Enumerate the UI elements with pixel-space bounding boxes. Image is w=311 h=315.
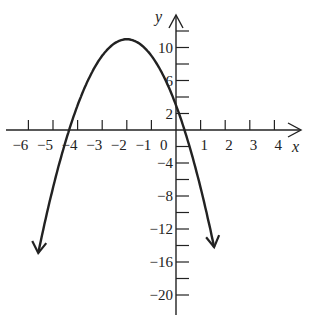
x-tick-label: −1 bbox=[135, 137, 151, 153]
x-tick-label: 1 bbox=[201, 137, 209, 153]
y-tick-label: 2 bbox=[166, 106, 174, 122]
x-tick-label: −6 bbox=[12, 137, 28, 153]
y-tick-label: 10 bbox=[158, 40, 173, 56]
x-tick-label: −5 bbox=[37, 137, 53, 153]
origin-label: 0 bbox=[160, 137, 168, 153]
y-ticks bbox=[176, 31, 189, 295]
y-tick-label: −16 bbox=[150, 254, 174, 270]
x-tick-label: 3 bbox=[250, 137, 257, 153]
y-axis-label: y bbox=[153, 8, 163, 26]
y-tick-label: −4 bbox=[157, 155, 173, 171]
x-tick-label: 4 bbox=[274, 137, 282, 153]
x-tick-label: −2 bbox=[111, 137, 127, 153]
y-tick-labels: 1062−4−8−12−16−20 bbox=[150, 40, 174, 304]
x-tick-labels: −6−5−4−3−2−11234 bbox=[12, 137, 282, 153]
y-tick-label: −12 bbox=[150, 221, 173, 237]
x-tick-label: −3 bbox=[86, 137, 102, 153]
x-tick-label: 2 bbox=[225, 137, 233, 153]
y-tick-label: −20 bbox=[150, 287, 173, 303]
x-ticks bbox=[28, 120, 274, 130]
y-tick-label: −8 bbox=[157, 188, 173, 204]
parabola-graph: −6−5−4−3−2−11234 1062−4−8−12−16−20 x y 0 bbox=[0, 0, 311, 315]
x-axis-label: x bbox=[291, 138, 299, 155]
